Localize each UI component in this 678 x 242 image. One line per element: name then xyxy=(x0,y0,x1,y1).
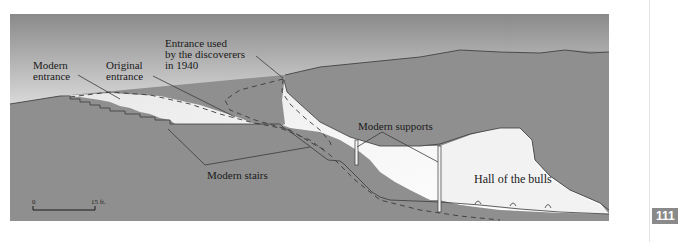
label-discoverers-entrance-3: in 1940 xyxy=(165,60,198,71)
scale-bar-start-label: 0 xyxy=(32,199,36,206)
label-modern-stairs: Modern stairs xyxy=(207,170,268,181)
scale-bar-end-label: 15 ft. xyxy=(91,199,106,206)
label-hall-of-the-bulls: Hall of the bulls xyxy=(474,173,552,185)
label-modern-supports: Modern supports xyxy=(358,121,433,132)
support-pillar-1 xyxy=(355,140,358,165)
label-modern-entrance-2: entrance xyxy=(33,71,70,82)
support-pillar-2 xyxy=(438,146,441,212)
page-number-badge: 111 xyxy=(652,208,678,224)
page-margin-divider xyxy=(649,0,650,242)
label-original-entrance-2: entrance xyxy=(106,71,143,82)
